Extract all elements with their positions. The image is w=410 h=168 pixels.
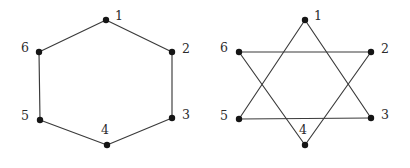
figure-root: 123456123456 xyxy=(0,0,410,168)
graph-vertex xyxy=(169,115,175,121)
vertex-label-5: 5 xyxy=(21,110,29,123)
vertex-label-6: 6 xyxy=(220,42,228,55)
vertex-label-1: 1 xyxy=(314,10,322,23)
graph-vertex xyxy=(368,115,374,121)
vertex-label-5: 5 xyxy=(220,110,228,123)
edges-layer xyxy=(39,20,371,145)
graph-edge xyxy=(305,20,371,118)
graph-canvas xyxy=(0,0,410,168)
vertex-label-3: 3 xyxy=(182,109,190,122)
vertex-label-4: 4 xyxy=(299,124,307,137)
vertex-label-3: 3 xyxy=(381,109,389,122)
vertex-label-2: 2 xyxy=(182,43,190,56)
vertex-label-1: 1 xyxy=(115,10,123,23)
graph-edge xyxy=(107,118,172,145)
graph-edge xyxy=(305,52,371,145)
graph-vertex xyxy=(169,49,175,55)
graph-edge xyxy=(239,118,371,119)
graph-edge xyxy=(239,52,305,145)
graph-vertex xyxy=(236,116,242,122)
graph-vertex xyxy=(103,17,109,23)
vertices-layer xyxy=(36,17,374,148)
vertex-label-2: 2 xyxy=(381,43,389,56)
graph-vertex xyxy=(368,49,374,55)
graph-vertex xyxy=(104,142,110,148)
graph-vertex xyxy=(302,17,308,23)
graph-edge xyxy=(39,20,106,52)
vertex-label-4: 4 xyxy=(101,124,109,137)
graph-vertex xyxy=(36,49,42,55)
graph-vertex xyxy=(37,117,43,123)
graph-edge xyxy=(39,52,40,120)
graph-vertex xyxy=(302,142,308,148)
vertex-label-6: 6 xyxy=(21,42,29,55)
graph-vertex xyxy=(236,49,242,55)
graph-edge xyxy=(40,120,107,145)
graph-edge xyxy=(239,20,305,119)
graph-edge xyxy=(106,20,172,52)
